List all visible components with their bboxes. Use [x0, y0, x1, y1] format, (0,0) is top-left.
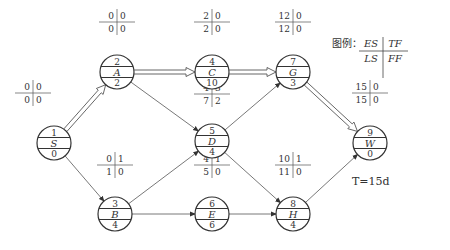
node-H: 8H4 — [276, 197, 310, 231]
network-diagram: 0000000001102020437241501201201011101501… — [0, 0, 450, 250]
param-ff: 0 — [118, 167, 124, 177]
edge-S-B — [65, 156, 104, 201]
node-B: 3B4 — [98, 197, 132, 231]
edge-G-W — [304, 82, 357, 131]
param-es: 2 — [203, 11, 209, 21]
node-number: 3 — [112, 199, 118, 209]
param-tf: 1 — [118, 154, 124, 164]
edge-D-G — [225, 83, 280, 130]
node-name: G — [289, 67, 297, 78]
legend-ls: LS — [363, 53, 378, 64]
node-C: 4C10 — [195, 55, 229, 89]
node-number: 8 — [290, 199, 296, 209]
param-tf: 0 — [120, 11, 126, 21]
param-ls: 2 — [203, 24, 209, 34]
node-duration: 6 — [209, 220, 215, 230]
params-B: 0110 — [97, 152, 133, 178]
param-es: 0 — [106, 154, 112, 164]
node-name: D — [207, 136, 216, 147]
node-duration: 4 — [290, 220, 296, 230]
node-duration: 3 — [290, 78, 296, 88]
node-number: 5 — [209, 126, 215, 136]
param-ls: 7 — [203, 96, 209, 106]
node-S: 1S0 — [37, 126, 71, 160]
edge-C-G — [229, 68, 276, 77]
edge-D-H — [225, 152, 281, 202]
node-duration: 4 — [209, 147, 215, 157]
param-ls: 15 — [356, 95, 368, 105]
param-tf: 0 — [296, 11, 302, 21]
edge-B-D — [129, 151, 199, 204]
node-name: C — [208, 67, 216, 78]
param-tf: 0 — [215, 11, 221, 21]
legend-ff: FF — [387, 53, 403, 64]
total-duration: T=15d — [352, 175, 390, 188]
param-ls: 12 — [279, 24, 290, 34]
params-G: 120120 — [275, 9, 311, 35]
node-name: B — [110, 209, 118, 220]
param-es: 0 — [108, 11, 114, 21]
param-ff: 0 — [215, 24, 221, 34]
params-C: 2020 — [194, 9, 230, 35]
param-es: 15 — [356, 82, 368, 92]
edge-A-D — [131, 82, 198, 131]
param-ff: 0 — [215, 167, 221, 177]
node-A: 2A2 — [100, 55, 134, 89]
edge-A-C — [134, 68, 195, 77]
param-ff: 0 — [36, 95, 42, 105]
param-ls: 0 — [24, 95, 30, 105]
node-number: 9 — [367, 128, 373, 138]
param-ff: 0 — [120, 24, 126, 34]
params-A: 0000 — [99, 9, 135, 35]
node-G: 7G3 — [276, 55, 310, 89]
legend-prefix: 图例： — [332, 37, 362, 49]
param-ff: 2 — [215, 96, 221, 106]
node-name: H — [288, 209, 298, 220]
param-tf: 0 — [373, 82, 379, 92]
edge-S-A — [64, 85, 106, 132]
node-name: S — [51, 138, 58, 149]
node-number: 1 — [51, 128, 57, 138]
legend-es: ES — [363, 38, 378, 49]
param-ls: 11 — [279, 167, 290, 177]
node-duration: 2 — [114, 78, 120, 88]
node-E: 6E6 — [195, 197, 229, 231]
param-es: 10 — [279, 154, 291, 164]
node-duration: 0 — [367, 149, 373, 159]
param-ff: 0 — [373, 95, 379, 105]
node-duration: 4 — [112, 220, 118, 230]
param-es: 12 — [279, 11, 290, 21]
param-ff: 0 — [296, 167, 302, 177]
node-number: 7 — [290, 57, 296, 67]
node-D: 5D4 — [195, 124, 229, 158]
param-tf: 0 — [36, 82, 42, 92]
param-tf: 1 — [296, 154, 302, 164]
node-number: 4 — [209, 57, 215, 67]
node-number: 2 — [114, 57, 120, 67]
params-S: 0000 — [15, 80, 51, 106]
edge-H-W — [305, 155, 357, 203]
node-duration: 10 — [206, 78, 218, 88]
param-ls: 0 — [108, 24, 114, 34]
param-es: 0 — [24, 82, 30, 92]
params-W: 150150 — [352, 80, 388, 106]
node-name: E — [207, 209, 216, 220]
param-ls: 5 — [203, 167, 209, 177]
node-name: A — [112, 67, 120, 78]
node-W: 9W0 — [353, 126, 387, 160]
legend: 图例： ES TF LS FF — [332, 37, 408, 78]
node-duration: 0 — [51, 149, 57, 159]
node-name: W — [365, 138, 376, 149]
params-H: 101110 — [275, 152, 311, 178]
legend-tf: TF — [388, 38, 403, 49]
param-ls: 1 — [106, 167, 112, 177]
param-ff: 0 — [296, 24, 302, 34]
node-number: 6 — [209, 199, 215, 209]
nodes-layer: 1S02A23B44C105D46E67G38H49W0 — [37, 55, 387, 231]
